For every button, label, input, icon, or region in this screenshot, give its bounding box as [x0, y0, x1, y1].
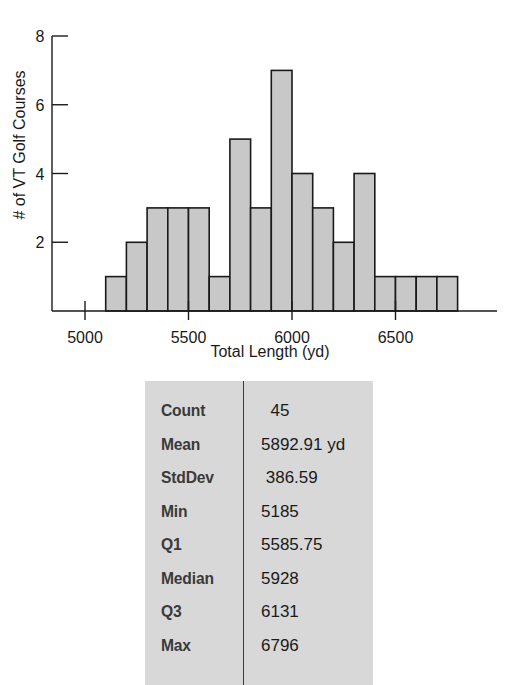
stats-label: Q3	[161, 602, 181, 622]
histogram-bar	[416, 277, 437, 311]
y-tick-label: 8	[36, 28, 45, 45]
x-tick-label: 5000	[67, 329, 103, 346]
histogram-bar	[147, 208, 168, 311]
stats-row: Median5928	[145, 569, 373, 599]
histogram-bar	[230, 139, 251, 311]
x-tick-label: 5500	[171, 329, 207, 346]
stats-row: StdDev 386.59	[145, 468, 373, 498]
stats-value: 5585.75	[261, 535, 322, 555]
histogram-bars	[106, 70, 458, 311]
x-axis-label: Total Length (yd)	[210, 343, 329, 360]
histogram-bar	[168, 208, 189, 311]
stats-label: Q1	[161, 535, 181, 555]
y-tick-label: 2	[36, 234, 45, 251]
stats-value: 5928	[261, 569, 299, 589]
histogram-bar	[313, 208, 334, 311]
histogram-bar	[126, 242, 147, 311]
histogram-chart: 2468 5000550060006500 Total Length (yd) …	[0, 0, 505, 370]
histogram-bar	[189, 208, 210, 311]
stats-label: Count	[161, 401, 205, 421]
histogram-bar	[209, 277, 230, 311]
stats-row: Count 45	[145, 401, 373, 431]
histogram-bar	[396, 277, 417, 311]
histogram-bar	[251, 208, 272, 311]
stats-row: Mean5892.91 yd	[145, 435, 373, 465]
stats-value: 5892.91 yd	[261, 435, 345, 455]
stats-value: 45	[261, 401, 289, 421]
stats-value: 5185	[261, 502, 299, 522]
y-axis-label: # of VT Golf Courses	[11, 70, 28, 219]
stats-value: 6796	[261, 636, 299, 656]
summary-stats-table: Count 45Mean5892.91 ydStdDev 386.59Min51…	[145, 381, 373, 685]
y-tick-label: 4	[36, 166, 45, 183]
stats-row: Max6796	[145, 636, 373, 666]
x-tick-label: 6500	[378, 329, 414, 346]
stats-label: Max	[161, 636, 191, 656]
histogram-bar	[292, 174, 313, 312]
stats-label: StdDev	[161, 468, 214, 488]
stats-value: 6131	[261, 602, 299, 622]
histogram-bar	[271, 70, 292, 311]
histogram-bar	[106, 277, 127, 311]
histogram-bar	[333, 242, 354, 311]
stats-label: Median	[161, 569, 214, 589]
y-tick-label: 6	[36, 97, 45, 114]
histogram-bar	[375, 277, 396, 311]
stats-label: Mean	[161, 435, 200, 455]
stats-row: Q36131	[145, 602, 373, 632]
histogram-bar	[354, 174, 375, 312]
stats-value: 386.59	[261, 468, 318, 488]
stats-row: Min5185	[145, 502, 373, 532]
stats-label: Min	[161, 502, 187, 522]
stats-row: Q15585.75	[145, 535, 373, 565]
histogram-bar	[437, 277, 458, 311]
